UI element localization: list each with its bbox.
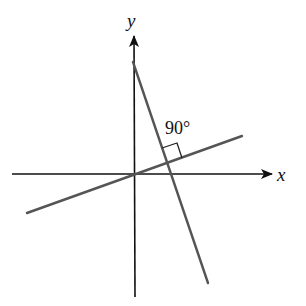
perpendicular-line <box>133 62 208 283</box>
x-axis-label: x <box>276 164 286 185</box>
coordinate-plane: 90° y x <box>0 0 306 306</box>
diagram-canvas: 90° y x <box>0 0 306 306</box>
y-axis <box>134 36 135 297</box>
y-axis-label: y <box>125 10 136 31</box>
angle-label: 90° <box>165 118 190 138</box>
